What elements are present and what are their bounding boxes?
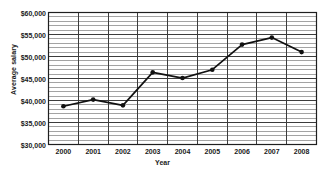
line-chart: Average salary $60,000$55,000$50,000$45,… bbox=[0, 0, 325, 172]
x-axis-title: Year bbox=[0, 159, 325, 166]
x-tick-label: 2008 bbox=[282, 148, 322, 155]
x-axis-tick-labels: 200020012002200320042005200620072008 bbox=[0, 0, 325, 172]
